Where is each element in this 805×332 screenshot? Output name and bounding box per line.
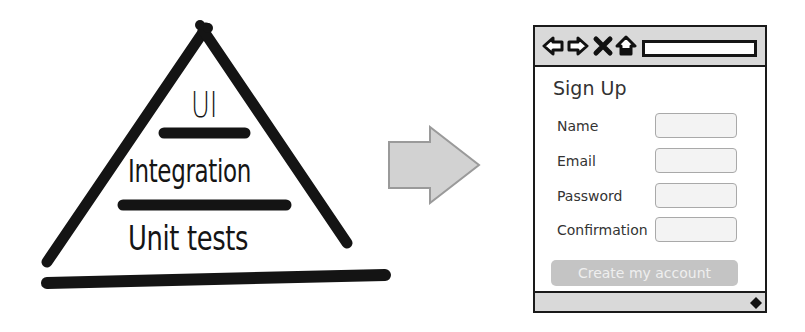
signup-form: Sign Up Name Email Password Confirmation…: [535, 67, 765, 291]
pyramid-level-ui: UI: [191, 84, 217, 125]
email-label: Email: [557, 153, 596, 169]
password-label: Password: [557, 188, 622, 204]
name-input[interactable]: [655, 113, 737, 138]
form-row-confirmation: Confirmation: [535, 217, 765, 245]
home-icon[interactable]: [615, 35, 637, 57]
url-bar[interactable]: [642, 40, 757, 57]
create-account-button[interactable]: Create my account: [551, 260, 738, 286]
stop-x-icon[interactable]: [592, 35, 614, 57]
form-row-email: Email: [535, 148, 765, 176]
browser-status-bar: [535, 291, 765, 311]
browser-window-mockup: Sign Up Name Email Password Confirmation…: [533, 25, 767, 313]
password-input[interactable]: [655, 183, 737, 208]
name-label: Name: [557, 118, 598, 134]
browser-toolbar: [535, 27, 765, 67]
resize-grip-icon[interactable]: [749, 296, 763, 310]
form-title: Sign Up: [553, 77, 626, 99]
pyramid-level-integration: Integration: [128, 152, 251, 190]
pyramid-level-unit-tests: Unit tests: [128, 218, 248, 258]
email-input[interactable]: [655, 148, 737, 173]
form-row-name: Name: [535, 113, 765, 141]
confirmation-label: Confirmation: [557, 222, 648, 238]
right-arrow-icon: [385, 125, 485, 205]
confirmation-input[interactable]: [655, 217, 737, 242]
test-pyramid: UI Integration Unit tests: [0, 0, 420, 332]
back-arrow-icon[interactable]: [542, 35, 564, 57]
forward-arrow-icon[interactable]: [567, 35, 589, 57]
form-row-password: Password: [535, 183, 765, 211]
